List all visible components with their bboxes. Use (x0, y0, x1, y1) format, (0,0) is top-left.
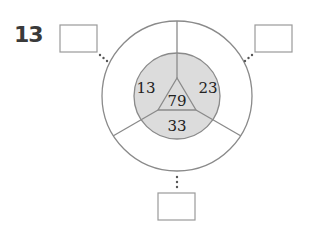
region-right-value: 23 (198, 79, 217, 97)
circle-diagram: 13 23 79 33 (0, 0, 309, 236)
dotted-leader-bottom (176, 176, 178, 188)
answer-box-bottom[interactable] (158, 193, 195, 220)
region-bottom-value: 33 (167, 117, 186, 135)
answer-box-top-right[interactable] (255, 25, 292, 52)
dotted-leader-top-right (244, 54, 253, 62)
answer-box-top-left[interactable] (60, 25, 97, 52)
dotted-leader-top-left (99, 54, 108, 62)
center-value: 79 (167, 92, 186, 110)
region-left-value: 13 (136, 79, 155, 97)
